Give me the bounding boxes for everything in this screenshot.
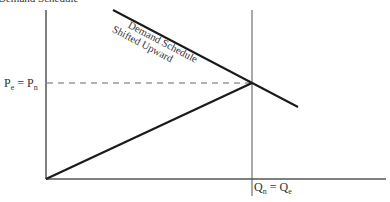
demand-label: Demand Schedule Shifted Upward — [111, 14, 200, 75]
price-label: Pe = Pn — [4, 76, 38, 92]
clipped-title-text: Demand Schedule — [0, 0, 78, 4]
quantity-label: Qn = Qe — [254, 180, 292, 196]
economics-diagram: Demand Schedule Demand Schedule Shifted … — [0, 0, 390, 202]
supply-line — [46, 83, 252, 179]
